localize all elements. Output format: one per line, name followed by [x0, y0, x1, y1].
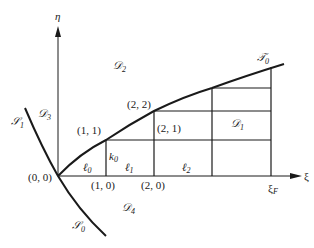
point-label-2-2: (2, 2): [127, 98, 151, 111]
region-label-d4: 𝒟4: [122, 201, 135, 216]
point-label-2-0: (2, 0): [141, 179, 165, 192]
point-label-2-1: (2, 1): [157, 122, 181, 135]
curve-label-t0: 𝒯0: [257, 51, 269, 66]
eta-axis: η: [55, 10, 61, 176]
curve-label-s0: 𝒮0: [72, 219, 85, 234]
eta-label: η: [55, 10, 60, 22]
segment-label-l1: ℓ1: [125, 161, 134, 175]
curve-t0: [58, 64, 284, 176]
curve-label-s1: 𝒮1: [11, 115, 24, 130]
segment-label-k0: k0: [109, 150, 118, 164]
region-label-d2: 𝒟2: [113, 59, 126, 74]
point-label-1-1: (1, 1): [77, 124, 101, 137]
point-label-1-0: (1, 0): [91, 179, 115, 192]
characteristic-grid-diagram: η ξ (0, 0) (1, 0) (2, 0) (1, 1) (2, 1) (…: [0, 0, 314, 248]
point-label-0-0: (0, 0): [28, 171, 52, 184]
eta-arrow-icon: [55, 26, 61, 37]
region-label-d3: 𝒟3: [38, 107, 51, 122]
region-label-d1: 𝒟1: [231, 117, 244, 132]
xi-label: ξ: [304, 170, 309, 183]
xi-arrow-icon: [290, 173, 302, 179]
xi-f-label: ξF: [268, 182, 278, 196]
grid-lines: [106, 67, 271, 176]
segment-label-l0: ℓ0: [83, 161, 92, 175]
segment-label-l2: ℓ2: [182, 161, 191, 175]
